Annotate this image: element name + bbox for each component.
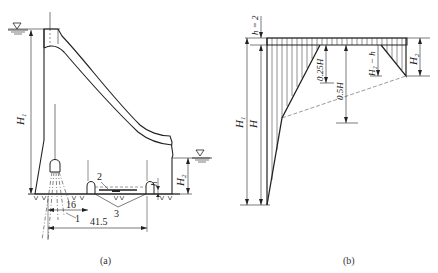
label-dim-16: 16: [66, 199, 76, 210]
dam-outline: [35, 29, 173, 194]
svg-text:H1: H1: [233, 117, 247, 129]
label-H2-minus-h: H₂ − h: [367, 51, 377, 77]
label-0-5H: 0.5H: [335, 82, 345, 100]
label-dim-41-5: 41.5: [90, 216, 108, 227]
downstream-water-level-icon: [192, 150, 212, 162]
diagram-canvas: H1 H2 h 16 41.5 1 2 3: [0, 0, 438, 273]
label-item-2: 2: [97, 171, 102, 182]
figure-b-caption: (b): [343, 255, 355, 266]
label-item-1: 1: [75, 213, 80, 224]
label-H: H: [247, 119, 259, 129]
label-h-eq-2: h = 2: [250, 15, 260, 35]
svg-text:H1: H1: [14, 114, 28, 126]
upstream-sill: [87, 182, 95, 195]
ground-hatch: [34, 196, 172, 200]
uplift-pressure-line: [267, 45, 320, 205]
drainage-gallery: [50, 160, 60, 173]
figure-a-caption: (a): [100, 255, 111, 266]
pressure-hatch: [272, 38, 402, 180]
figure-b: [240, 16, 430, 205]
label-item-3: 3: [114, 208, 119, 219]
upstream-water-level-icon: [8, 23, 28, 34]
figure-a-labels: H1 H2 h 16 41.5 1 2 3: [14, 114, 188, 227]
label-h: h: [149, 181, 159, 186]
label-0-25H: 0.25H: [315, 58, 325, 81]
svg-text:H2: H2: [407, 53, 421, 66]
figure-a: [8, 12, 212, 240]
svg-text:H2: H2: [174, 174, 188, 187]
